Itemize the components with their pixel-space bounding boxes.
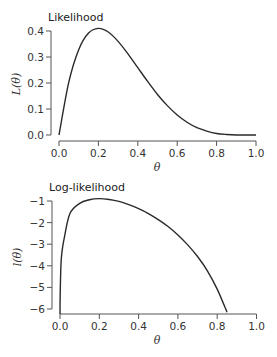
log-likelihood-xtick-label: 0.0 <box>52 320 69 332</box>
log-likelihood-ytick-label: −4 <box>30 260 46 272</box>
likelihood-ytick-label: 0.0 <box>27 129 44 141</box>
likelihood-title: Likelihood <box>48 11 103 24</box>
log-likelihood-ytick-label: −6 <box>30 303 46 315</box>
log-likelihood-curve <box>60 199 227 314</box>
log-likelihood-xtick-label: 0.8 <box>209 320 226 332</box>
log-likelihood-title: Log-likelihood <box>49 181 125 194</box>
log-likelihood-xtick-label: 0.4 <box>130 320 147 332</box>
likelihood-xtick-label: 1.0 <box>248 147 265 159</box>
log-likelihood-ytick-label: −5 <box>30 281 45 293</box>
log-likelihood-xtick-label: 0.2 <box>91 320 108 332</box>
log-likelihood-y-axis-label: l(θ) <box>11 248 24 267</box>
likelihood-xtick-label: 0.6 <box>169 147 186 159</box>
likelihood-x-ticks <box>59 141 256 146</box>
likelihood-xtick-label: 0.0 <box>51 147 68 159</box>
likelihood-ytick-label: 0.1 <box>27 103 44 115</box>
likelihood-ytick-label: 0.2 <box>27 77 44 89</box>
log-likelihood-y-ticks <box>47 201 52 309</box>
figure: Likelihood 0.0 0.1 0.2 0.3 0.4 L(θ) 0.0 … <box>0 0 277 357</box>
log-likelihood-ytick-label: −3 <box>30 238 45 250</box>
likelihood-chart: Likelihood 0.0 0.1 0.2 0.3 0.4 L(θ) 0.0 … <box>10 11 264 174</box>
log-likelihood-chart: Log-likelihood −1 −2 −3 −4 −5 −6 l(θ) 0.… <box>11 181 265 347</box>
log-likelihood-x-axis-label: θ <box>154 334 161 347</box>
log-likelihood-xtick-label: 0.6 <box>170 320 187 332</box>
log-likelihood-ytick-label: −2 <box>30 217 45 229</box>
log-likelihood-xtick-label: 1.0 <box>248 320 265 332</box>
log-likelihood-x-ticks <box>60 314 257 319</box>
likelihood-x-axis-label: θ <box>154 161 161 174</box>
log-likelihood-ytick-label: −1 <box>30 195 45 207</box>
likelihood-ytick-label: 0.4 <box>27 25 44 37</box>
likelihood-xtick-label: 0.4 <box>129 147 146 159</box>
likelihood-curve <box>59 28 256 135</box>
likelihood-xtick-label: 0.8 <box>208 147 225 159</box>
likelihood-ytick-label: 0.3 <box>27 51 44 63</box>
likelihood-xtick-label: 0.2 <box>90 147 107 159</box>
likelihood-y-ticks <box>46 31 51 135</box>
likelihood-y-axis-label: L(θ) <box>10 73 23 97</box>
